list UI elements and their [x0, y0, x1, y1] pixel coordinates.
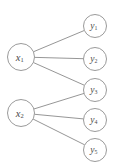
edge-x1-y2	[35, 57, 84, 58]
edge-x1-y1	[33, 30, 84, 51]
edge-x2-y3	[34, 93, 84, 109]
edge-x1-y3	[33, 63, 84, 86]
graph-canvas: x1x2y1y2y3y4y5	[0, 0, 116, 168]
node-y3[interactable]: y3	[84, 79, 107, 102]
bipartite-graph-diagram: x1x2y1y2y3y4y5	[0, 0, 116, 168]
node-y2[interactable]: y2	[84, 48, 107, 71]
node-y1[interactable]: y1	[84, 15, 107, 38]
node-x2[interactable]: x2	[8, 100, 35, 127]
edge-x2-y5	[33, 119, 85, 145]
node-x1[interactable]: x1	[8, 44, 35, 71]
edge-x2-y4	[34, 114, 83, 119]
node-y4[interactable]: y4	[84, 109, 107, 132]
node-y5[interactable]: y5	[84, 139, 107, 162]
nodes-layer: x1x2y1y2y3y4y5	[8, 15, 107, 162]
edges-layer	[33, 30, 85, 144]
